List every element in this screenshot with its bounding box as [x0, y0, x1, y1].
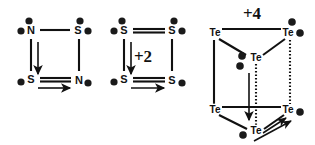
lone-pair-dot — [296, 29, 304, 37]
atom-label-s-top-right: S — [168, 24, 175, 36]
lone-pair-dot — [178, 27, 185, 34]
atom-label-n-bottom-right: N — [75, 74, 83, 86]
lone-pair-dot — [239, 131, 247, 139]
lone-pair-dot — [84, 27, 91, 34]
atom-label-te-bottom-center: Te — [251, 125, 262, 136]
atom-label-te-top-left: Te — [210, 27, 221, 38]
atom-label-s-bottom-left: S — [120, 73, 127, 85]
atom-label-n-top-left: N — [27, 24, 35, 36]
prism-edges — [214, 29, 290, 129]
lone-pair-dot — [110, 78, 117, 85]
atom-label-te-bottom-right: Te — [283, 104, 294, 115]
structure-dithiadiazene-square: N S S N — [17, 17, 91, 88]
structures-canvas: N S S N — [0, 0, 315, 145]
lone-pair-dot — [17, 78, 24, 85]
lone-pair-dot — [288, 18, 296, 26]
lone-pair-dot — [296, 108, 304, 116]
atom-label-te-bottom-left: Te — [210, 104, 221, 115]
lone-pair-dot — [84, 79, 91, 86]
atom-label-s-top-right: S — [74, 24, 81, 36]
lone-pair-dot — [17, 27, 24, 34]
atom-label-s-bottom-right: S — [168, 74, 175, 86]
lone-pairs-3 — [236, 18, 304, 139]
lone-pair-dot — [110, 27, 117, 34]
edge-top-right-to-top-center — [263, 39, 285, 55]
atom-label-s-bottom-left: S — [27, 73, 34, 85]
chemical-structures-figure: N S S N — [0, 0, 315, 145]
lone-pair-dot — [238, 52, 246, 60]
structure-hexatellurium-trigonal-prism: Te Te Te Te Te Te +4 — [210, 4, 304, 141]
atom-label-te-top-right: Te — [283, 27, 294, 38]
charge-label-plus-two: +2 — [134, 47, 152, 66]
atom-label-s-top-left: S — [120, 24, 127, 36]
lone-pair-dot — [178, 79, 185, 86]
edge-bottom-left-to-bottom-center — [219, 115, 247, 129]
lone-pair-dot — [236, 62, 244, 70]
charge-label-plus-four: +4 — [243, 4, 262, 23]
structure-tetrasulfur-dication-square: S S S S +2 — [110, 17, 185, 88]
atom-label-te-top-center: Te — [251, 52, 262, 63]
